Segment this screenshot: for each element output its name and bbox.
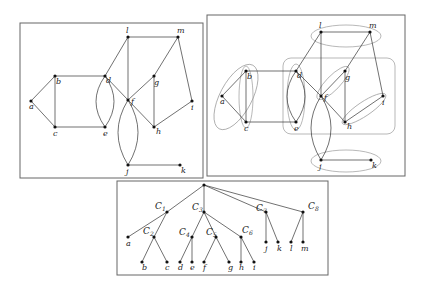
tree-edge-C7-k [266, 212, 278, 242]
node-l [319, 30, 322, 33]
tree-label-d: d [178, 263, 183, 272]
node-label-i: i [191, 103, 194, 112]
tree-node-root [202, 183, 205, 186]
tree-label-C3: C3 [192, 202, 203, 213]
edge-h-i [154, 101, 192, 127]
tree-edge-C4-d [180, 237, 192, 262]
figure-canvas: abcdefghijklm abcdefghijklm C1C3C7C8aC2C… [0, 0, 425, 291]
tree-edge-C1-C2 [154, 212, 167, 237]
right-graph-frame [207, 15, 405, 176]
tree-node-C8 [301, 210, 304, 213]
tree-label-l: l [290, 244, 293, 253]
multi-edge-f-j [118, 100, 128, 165]
node-label-f: f [130, 97, 136, 106]
tree-label-C1: C1 [155, 201, 166, 212]
left-graph-panel: abcdefghijklm [20, 23, 203, 178]
node-label-b: b [56, 77, 61, 86]
tree-node-C3 [202, 210, 205, 213]
tree-label-i: i [253, 263, 256, 272]
node-label-m: m [177, 26, 185, 35]
node-m [176, 35, 179, 38]
cluster-hull [287, 64, 305, 130]
tree-label-f: f [202, 263, 208, 272]
multi-edge-d-e [96, 76, 105, 127]
tree-edge-C8-l [291, 212, 303, 242]
tree-node-C1 [165, 210, 168, 213]
tree-label-k: k [277, 244, 282, 253]
tree-label-e: e [190, 263, 195, 272]
tree-edge-C5-g [216, 237, 229, 262]
node-label-i: i [382, 98, 385, 107]
tree-label-c: c [165, 263, 170, 272]
tree-edge-C3-C4 [192, 212, 204, 237]
node-f [319, 94, 322, 97]
edge-m-i [178, 37, 192, 101]
tree-label-b: b [142, 263, 147, 272]
node-label-e: e [103, 129, 108, 138]
node-label-d: d [106, 76, 111, 85]
tree-label-g: g [228, 263, 233, 272]
left-graph-frame [20, 23, 203, 178]
cluster-hull [205, 58, 267, 137]
node-label-f: f [323, 93, 329, 102]
decomposition-tree-panel: C1C3C7C8aC2C4C5C6jklmbcdefghi [117, 181, 328, 275]
tree-label-j: j [263, 244, 268, 253]
node-label-m: m [369, 21, 377, 30]
tree-label-m: m [301, 244, 309, 253]
edge-g-m [154, 37, 178, 76]
node-label-l: l [319, 21, 322, 30]
edge-a-b [31, 76, 55, 101]
node-label-h: h [156, 127, 161, 136]
node-m [368, 30, 371, 33]
tree-label-C6: C6 [242, 225, 253, 236]
node-label-a: a [29, 102, 34, 111]
edge-a-c [31, 101, 55, 127]
edge-d-l [105, 37, 128, 76]
multi-edge-f-j [128, 100, 138, 165]
node-label-h: h [347, 122, 352, 131]
tree-edge-root-C8 [204, 185, 303, 212]
tree-label-C4: C4 [179, 227, 190, 238]
multi-edge-f-j [311, 96, 321, 160]
tree-edge-C6-i [241, 237, 254, 262]
node-f [126, 98, 129, 101]
node-label-d: d [297, 71, 302, 80]
node-label-a: a [220, 97, 225, 106]
node-label-g: g [345, 73, 350, 82]
tree-label-h: h [239, 263, 244, 272]
edge-d-l [296, 32, 321, 71]
edge-h-i [345, 96, 383, 122]
node-label-k: k [181, 166, 186, 175]
node-l [126, 35, 129, 38]
tree-label-C8: C8 [308, 201, 319, 212]
tree-edge-C2-c [154, 237, 167, 262]
node-label-b: b [247, 72, 252, 81]
node-label-g: g [154, 78, 159, 87]
tree-node-C6 [239, 235, 242, 238]
edge-a-c [222, 96, 246, 122]
tree-label-C2: C2 [143, 226, 154, 237]
node-label-c: c [53, 129, 58, 138]
node-label-e: e [294, 124, 299, 133]
tree-node-C4 [190, 235, 193, 238]
edge-g-m [345, 32, 370, 71]
node-label-c: c [244, 124, 249, 133]
right-graph-panel: abcdefghijklm [205, 15, 405, 176]
tree-edge-C2-b [142, 237, 154, 262]
tree-label-a: a [126, 239, 131, 248]
tree-edge-C5-f [204, 237, 216, 262]
node-label-l: l [126, 26, 129, 35]
node-label-j: j [317, 162, 322, 171]
tree-label-C7: C7 [256, 203, 267, 214]
tree-label-C5: C5 [206, 227, 217, 238]
node-label-j: j [124, 167, 129, 176]
node-label-k: k [372, 161, 377, 170]
